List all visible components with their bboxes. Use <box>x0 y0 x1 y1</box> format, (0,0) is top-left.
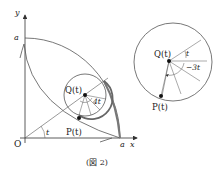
detail-circle <box>134 23 212 101</box>
x-intercept-label: a <box>120 140 125 149</box>
astroid-tail-top <box>20 44 24 58</box>
detail-spoke <box>169 40 201 61</box>
p-label: P(t) <box>66 127 82 137</box>
figure-caption: (図 2) <box>86 158 108 167</box>
y-intercept-label: a <box>14 33 19 42</box>
figure-2: y a O a x Q(t) P(t) t 4t (図 2) Q(t) P(t)… <box>0 0 217 174</box>
detail-spoke <box>169 61 181 94</box>
detail-angle-t-label: t <box>186 49 190 58</box>
y-axis-label: y <box>14 8 20 17</box>
detail-spoke <box>162 61 169 96</box>
q-label: Q(t) <box>65 85 82 95</box>
origin-label: O <box>14 139 21 149</box>
detail-point-p <box>159 94 163 98</box>
detail-angle-3t-label: −3t <box>186 63 201 72</box>
bold-arc <box>104 81 120 138</box>
point-q <box>83 93 87 97</box>
angle-arc-t <box>41 126 45 138</box>
point-p <box>77 116 81 120</box>
angle-t-label: t <box>46 128 50 137</box>
x-axis-label: x <box>130 140 135 149</box>
detail-point-q <box>167 59 171 63</box>
detail-q-label: Q(t) <box>154 49 171 59</box>
astroid-tail-right <box>100 138 112 142</box>
angle-4t-label: 4t <box>92 97 102 106</box>
detail-p-label: P(t) <box>152 102 168 112</box>
